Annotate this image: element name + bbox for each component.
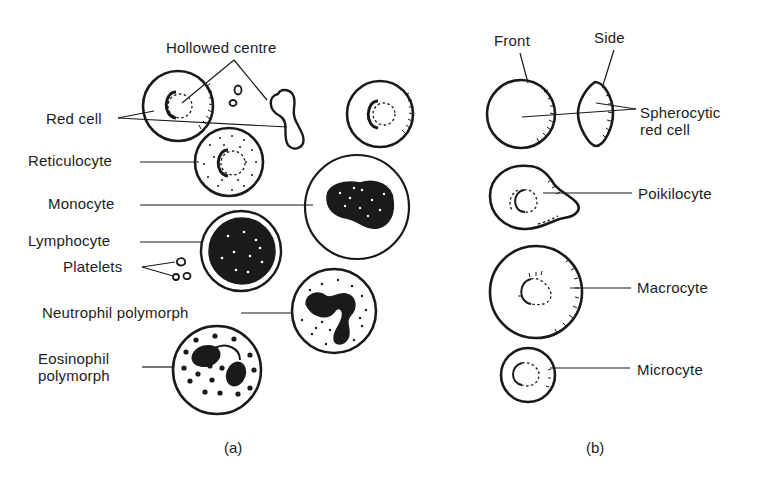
spherocyte-front-icon xyxy=(487,80,555,148)
caption-panel-a: (a) xyxy=(224,439,242,456)
label-spherocytic-line1: Spherocytic xyxy=(640,104,721,121)
label-poikilocyte: Poikilocyte xyxy=(638,185,712,202)
label-microcyte: Microcyte xyxy=(637,361,703,378)
small-body-icon xyxy=(230,100,237,106)
label-front: Front xyxy=(494,32,530,49)
label-eosinophil-line1: Eosinophil xyxy=(38,350,109,367)
reticulocyte-icon xyxy=(195,128,263,196)
spherocyte-side-icon xyxy=(578,82,613,146)
label-lymphocyte: Lymphocyte xyxy=(28,232,110,249)
blood-cells-diagram: Hollowed centre Red cell Reticulocyte Mo… xyxy=(0,0,773,488)
label-side: Side xyxy=(594,29,625,46)
label-hollowed-centre: Hollowed centre xyxy=(166,39,277,56)
lymphocyte-icon xyxy=(201,211,281,291)
label-monocyte: Monocyte xyxy=(48,195,115,212)
label-spherocytic-line2: red cell xyxy=(640,121,690,138)
red-cell-side-icon xyxy=(271,90,304,148)
red-cell-front-icon xyxy=(143,71,213,141)
label-reticulocyte: Reticulocyte xyxy=(28,152,112,169)
red-cell-icon xyxy=(347,81,413,147)
label-eosinophil-line2: polymorph xyxy=(38,367,110,384)
eosinophil-icon xyxy=(173,326,261,414)
poikilocyte-icon xyxy=(490,166,579,229)
label-neutrophil-polymorph: Neutrophil polymorph xyxy=(42,304,189,321)
macrocyte-icon xyxy=(490,246,582,338)
caption-panel-b: (b) xyxy=(586,439,604,456)
platelets-icon xyxy=(173,258,191,280)
label-macrocyte: Macrocyte xyxy=(637,279,708,296)
label-red-cell: Red cell xyxy=(46,110,102,127)
small-body-icon xyxy=(235,86,242,95)
diagram-drawing xyxy=(0,0,773,488)
monocyte-icon xyxy=(305,155,409,259)
microcyte-icon xyxy=(501,348,555,402)
label-platelets: Platelets xyxy=(63,258,122,275)
neutrophil-icon xyxy=(292,269,376,353)
